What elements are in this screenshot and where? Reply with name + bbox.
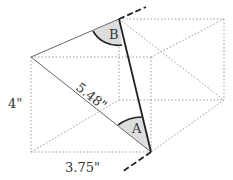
height-label: 4" (8, 96, 22, 111)
dashed-extension-top (119, 7, 146, 19)
diagonal-label: 5.48" (73, 80, 110, 113)
width-label: 3.75" (65, 160, 100, 175)
dashed-extension-bottom (122, 152, 151, 172)
angle-a-label: A (131, 121, 142, 136)
box-diagonal-diagram: B A 4" 3.75" 5.48" (0, 0, 233, 180)
angle-b-label: B (109, 27, 119, 42)
